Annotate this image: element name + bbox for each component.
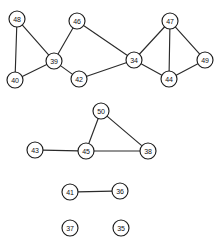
graph-edge-50-45 bbox=[89, 118, 99, 144]
graph-node-49[interactable]: 49 bbox=[197, 52, 213, 68]
graph-edge-46-34 bbox=[83, 25, 128, 56]
graph-node-label-38: 38 bbox=[144, 148, 152, 155]
graph-edge-48-39 bbox=[22, 25, 49, 56]
graph-node-label-42: 42 bbox=[75, 76, 83, 83]
graph-edge-44-49 bbox=[176, 64, 199, 76]
graph-node-48[interactable]: 48 bbox=[9, 11, 25, 27]
graph-node-label-44: 44 bbox=[165, 76, 173, 83]
node-layer: 4846473934494042445043453841363735 bbox=[7, 11, 213, 236]
graph-node-label-40: 40 bbox=[11, 77, 19, 84]
graph-node-label-34: 34 bbox=[130, 57, 138, 64]
graph-node-label-37: 37 bbox=[66, 225, 74, 232]
graph-node-label-46: 46 bbox=[73, 18, 81, 25]
graph-node-label-43: 43 bbox=[31, 147, 39, 154]
graph-edge-42-34 bbox=[86, 62, 127, 76]
graph-node-45[interactable]: 45 bbox=[78, 143, 94, 159]
graph-diagram: 4846473934494042445043453841363735 bbox=[0, 0, 222, 243]
graph-node-41[interactable]: 41 bbox=[62, 184, 78, 200]
graph-node-50[interactable]: 50 bbox=[93, 103, 109, 119]
graph-edge-41-36 bbox=[78, 191, 113, 192]
graph-node-label-45: 45 bbox=[82, 148, 90, 155]
graph-node-42[interactable]: 42 bbox=[71, 71, 87, 87]
graph-edge-34-47 bbox=[139, 27, 165, 55]
graph-edge-48-40 bbox=[15, 27, 17, 73]
graph-edge-39-42 bbox=[60, 65, 73, 74]
graph-node-label-39: 39 bbox=[50, 58, 58, 65]
graph-node-35[interactable]: 35 bbox=[113, 220, 129, 236]
graph-node-44[interactable]: 44 bbox=[161, 71, 177, 87]
graph-edge-39-46 bbox=[58, 28, 74, 55]
graph-canvas: 4846473934494042445043453841363735 bbox=[0, 0, 222, 243]
graph-node-label-41: 41 bbox=[66, 189, 74, 196]
graph-edge-40-39 bbox=[22, 64, 48, 76]
graph-node-label-35: 35 bbox=[117, 225, 125, 232]
graph-node-label-50: 50 bbox=[97, 108, 105, 115]
graph-edge-47-49 bbox=[175, 27, 200, 55]
graph-node-43[interactable]: 43 bbox=[27, 142, 43, 158]
graph-node-label-47: 47 bbox=[166, 18, 174, 25]
graph-edge-47-44 bbox=[169, 29, 170, 72]
graph-edge-50-38 bbox=[107, 116, 143, 146]
graph-edge-34-44 bbox=[141, 64, 163, 76]
graph-node-label-49: 49 bbox=[201, 57, 209, 64]
graph-node-39[interactable]: 39 bbox=[46, 53, 62, 69]
graph-node-label-36: 36 bbox=[116, 188, 124, 195]
graph-node-47[interactable]: 47 bbox=[162, 13, 178, 29]
graph-edge-43-45 bbox=[43, 150, 79, 151]
graph-node-label-48: 48 bbox=[13, 16, 21, 23]
graph-node-37[interactable]: 37 bbox=[62, 220, 78, 236]
graph-node-38[interactable]: 38 bbox=[140, 143, 156, 159]
graph-node-40[interactable]: 40 bbox=[7, 72, 23, 88]
graph-node-46[interactable]: 46 bbox=[69, 13, 85, 29]
graph-node-36[interactable]: 36 bbox=[112, 183, 128, 199]
graph-node-34[interactable]: 34 bbox=[126, 52, 142, 68]
